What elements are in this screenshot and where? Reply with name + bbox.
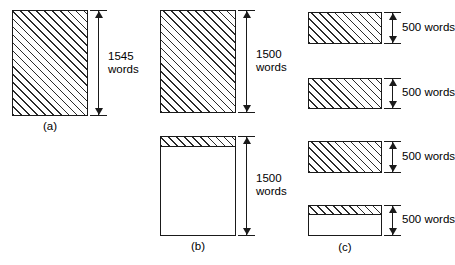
arrowhead-up-icon xyxy=(243,11,251,18)
arrowhead-down-icon xyxy=(389,165,397,172)
arrowhead-up-icon xyxy=(389,206,397,213)
dimension-unit: words xyxy=(256,185,287,198)
arrowhead-down-icon xyxy=(389,228,397,235)
dimension-label-b-1: 1500 words xyxy=(256,48,287,74)
dimension-label-c-3: 500 words xyxy=(402,150,455,163)
arrowhead-down-icon xyxy=(243,228,251,235)
block-c-1 xyxy=(308,12,382,44)
arrowhead-up-icon xyxy=(243,137,251,144)
arrowhead-down-icon xyxy=(95,108,103,115)
block-b-2 xyxy=(160,136,236,236)
arrowhead-down-icon xyxy=(389,101,397,108)
arrowhead-up-icon xyxy=(95,11,103,18)
strip-divider xyxy=(309,214,381,215)
hatch-fill xyxy=(309,79,381,108)
arrowhead-down-icon xyxy=(389,36,397,43)
dimension-unit: words xyxy=(256,61,287,74)
dimension-label-a-1: 1545 words xyxy=(108,50,139,76)
arrowhead-up-icon xyxy=(389,13,397,20)
dimension-shaft xyxy=(246,136,247,236)
dimension-value: 1500 xyxy=(256,172,287,185)
dimension-shaft xyxy=(246,10,247,113)
block-b-1 xyxy=(160,10,236,113)
hatch-fill xyxy=(309,142,381,172)
dimension-value: 1500 xyxy=(256,48,287,61)
arrowhead-up-icon xyxy=(389,142,397,149)
panel-a: 1545 words (a) xyxy=(0,0,150,140)
block-c-4 xyxy=(308,205,382,236)
block-c-3 xyxy=(308,141,382,173)
hatch-fill xyxy=(13,11,87,115)
panel-b: 1500 words 1500 words (b) xyxy=(150,0,298,265)
panel-c: 500 words 500 words 500 words xyxy=(298,0,446,265)
hatch-fill xyxy=(309,13,381,43)
dimension-label-c-1: 500 words xyxy=(402,21,455,34)
hatch-fill xyxy=(161,11,235,112)
dimension-label-c-2: 500 words xyxy=(402,86,455,99)
panel-caption-a: (a) xyxy=(12,120,88,133)
dimension-value: 1545 xyxy=(108,50,139,63)
hatch-fill-strip xyxy=(309,206,381,214)
strip-divider xyxy=(161,146,235,147)
dimension-shaft xyxy=(98,10,99,116)
block-a-1 xyxy=(12,10,88,116)
panel-caption-b: (b) xyxy=(160,240,236,253)
block-c-2 xyxy=(308,78,382,109)
arrowhead-down-icon xyxy=(243,105,251,112)
dimension-label-c-4: 500 words xyxy=(402,213,455,226)
dimension-label-b-2: 1500 words xyxy=(256,172,287,198)
hatch-fill-strip xyxy=(161,137,235,146)
dimension-unit: words xyxy=(108,63,139,76)
panel-caption-c: (c) xyxy=(308,241,382,254)
arrowhead-up-icon xyxy=(389,79,397,86)
